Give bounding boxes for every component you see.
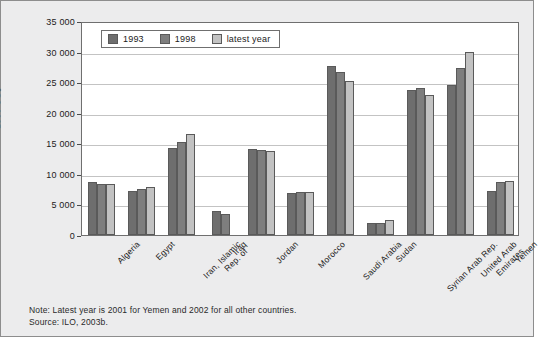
bar [146, 187, 155, 235]
x-tick-label: Algeria [115, 239, 142, 266]
bar [186, 134, 195, 235]
chart-notes: Note: Latest year is 2001 for Yemen and … [29, 304, 296, 328]
chart-legend: 19931998latest year [101, 30, 280, 48]
bar [248, 149, 257, 235]
bar-group [281, 23, 321, 235]
bar-group [480, 23, 520, 235]
bar-group [162, 23, 202, 235]
plot-area: 19931998latest year [81, 22, 519, 236]
bar-group [201, 23, 241, 235]
bar [505, 181, 514, 235]
legend-entry: latest year [212, 34, 271, 44]
y-tick-label: 20 000 [1, 109, 75, 119]
legend-swatch-icon [108, 34, 118, 44]
legend-swatch-icon [212, 34, 222, 44]
bar [212, 211, 221, 235]
bar [305, 192, 314, 235]
bar [345, 81, 354, 235]
legend-entry: 1993 [108, 34, 144, 44]
bar [177, 142, 186, 235]
x-tick-label: Morocco [316, 239, 347, 270]
bar [221, 214, 230, 235]
bar-group [321, 23, 361, 235]
bar-group [82, 23, 122, 235]
bar [376, 223, 385, 235]
bar-group [241, 23, 281, 235]
source-text: Source: ILO, 2003b. [29, 316, 296, 328]
bar [128, 191, 137, 235]
bar [106, 184, 115, 235]
legend-swatch-icon [160, 34, 170, 44]
bar [137, 189, 146, 235]
bar-group [440, 23, 480, 235]
bar [416, 88, 425, 235]
bar [168, 148, 177, 235]
bar [425, 95, 434, 235]
bar [336, 72, 345, 235]
bar [257, 150, 266, 235]
x-axis-labels: AlgeriaEgyptIran, Islamic Rep. ofIraqJor… [81, 237, 519, 307]
bar [97, 184, 106, 235]
note-text: Note: Latest year is 2001 for Yemen and … [29, 304, 296, 316]
bar [465, 52, 474, 235]
y-tick-label: 0 [1, 231, 75, 241]
x-tick-label: Egypt [153, 239, 176, 262]
x-tick-label: Jordan [274, 239, 300, 265]
y-tick-label: 35 000 [1, 17, 75, 27]
bar [367, 223, 376, 235]
bar [266, 151, 275, 235]
bar [456, 68, 465, 235]
bar [385, 220, 394, 235]
bar [88, 182, 97, 235]
bar [407, 90, 416, 235]
y-tick-label: 30 000 [1, 48, 75, 58]
bar [296, 192, 305, 235]
bar-group [361, 23, 401, 235]
legend-label: latest year [227, 34, 271, 44]
legend-label: 1993 [123, 34, 144, 44]
y-tick-label: 25 000 [1, 78, 75, 88]
bar [447, 85, 456, 235]
bar [287, 193, 296, 235]
bar-group [122, 23, 162, 235]
y-tick-label: 10 000 [1, 170, 75, 180]
legend-label: 1998 [175, 34, 196, 44]
bar-group [401, 23, 441, 235]
bar [327, 66, 336, 235]
bars-layer [82, 23, 518, 235]
y-tick-label: 15 000 [1, 139, 75, 149]
bar [487, 191, 496, 235]
bar [496, 182, 505, 235]
legend-entry: 1998 [160, 34, 196, 44]
y-tick-label: 5 000 [1, 200, 75, 210]
